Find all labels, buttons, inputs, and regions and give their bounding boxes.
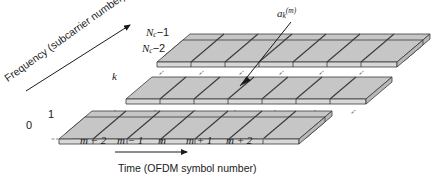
freq-tick-nc-minus-2: Nc−2 xyxy=(142,43,165,55)
freq-tick-one: 1 xyxy=(48,109,54,120)
symbol-superscript: (m) xyxy=(286,6,296,15)
ellipsis-upper xyxy=(160,72,363,75)
subcarrier-row-k xyxy=(126,77,392,104)
time-tick-m: m xyxy=(158,135,166,146)
time-tick-m-minus-2: m − 2 xyxy=(80,135,106,146)
plane-group-top xyxy=(157,34,430,67)
time-tick-m-plus-2: m + 2 xyxy=(226,135,252,146)
time-axis-label: Time (OFDM symbol number) xyxy=(118,162,256,174)
freq-tick-zero: 0 xyxy=(26,120,32,131)
subcarrier-row-nc-minus-2 xyxy=(157,40,423,67)
symbol-annotation-label: ak(m) xyxy=(277,7,296,20)
plane-group-middle xyxy=(126,77,392,104)
freq-tick-k: k xyxy=(112,71,117,82)
freq-tick-nc-minus-1: Nc−1 xyxy=(146,27,169,39)
tick-op: −1 xyxy=(157,26,170,38)
time-tick-m-minus-1: m − 1 xyxy=(117,135,143,146)
time-tick-m-plus-1: m + 1 xyxy=(186,135,212,146)
tick-op: −2 xyxy=(153,42,166,54)
